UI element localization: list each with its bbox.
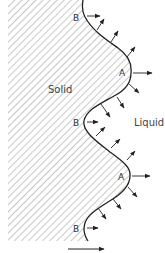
flux-arrow [113,199,121,209]
flux-arrow [96,127,105,136]
flux-arrow [128,187,137,197]
flux-arrow [127,151,135,160]
point-label-b3: B [73,224,79,234]
flux-arrow [101,104,110,117]
point-label-b1: B [73,13,79,23]
flux-arrow [111,31,118,42]
flux-arrow [127,47,135,57]
flux-arrow [98,208,106,219]
flux-arrow [111,139,120,148]
solidification-interface-diagram: B A B A B Solid Liquid [0,0,165,253]
solid-label: Solid [48,84,72,95]
flux-arrow [97,19,104,30]
point-label-a2: A [118,172,125,182]
flux-arrow [117,97,124,108]
point-label-a1: A [119,68,126,78]
flux-arrow [129,84,139,93]
liquid-label: Liquid [134,117,164,128]
point-label-b2: B [73,118,79,128]
